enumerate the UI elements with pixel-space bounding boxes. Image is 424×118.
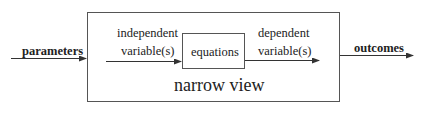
dependent-label-line1: dependent	[258, 26, 309, 40]
independent-label-line1: independent	[117, 26, 178, 40]
input-label: parameters	[22, 44, 83, 58]
inner-box-label: equations	[191, 45, 239, 59]
diagram-canvas	[0, 0, 424, 118]
output-label: outcomes	[354, 41, 404, 55]
outer-box-label: narrow view	[174, 78, 264, 92]
dependent-label-line2: variable(s)	[258, 44, 311, 58]
independent-label-line2: variable(s)	[121, 44, 174, 58]
